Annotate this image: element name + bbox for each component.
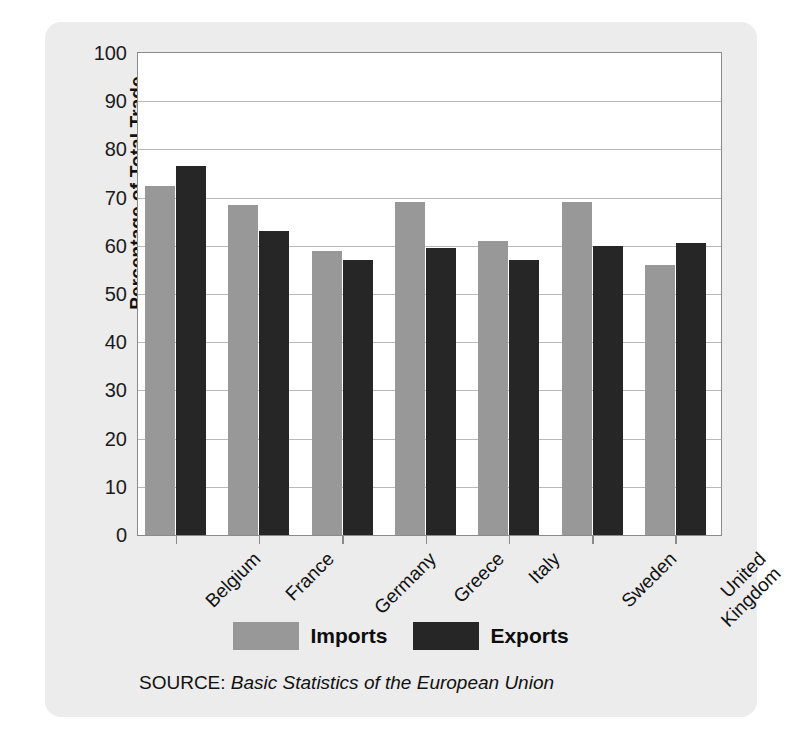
- bar-group: [645, 53, 706, 535]
- bar-imports: [145, 186, 175, 535]
- bar-group: [478, 53, 539, 535]
- chart-page: Percentage of Total Trade 10090807060504…: [0, 0, 792, 748]
- bar-exports: [593, 246, 623, 535]
- category-label-line: Germany: [370, 548, 440, 618]
- category-label-line: Italy: [524, 548, 564, 588]
- legend-label: Exports: [490, 624, 568, 648]
- bar-group: [312, 53, 373, 535]
- x-axis-tick: [675, 535, 677, 544]
- y-axis-tick-label: 40: [105, 331, 127, 354]
- bar-exports: [426, 248, 456, 535]
- bar-group: [395, 53, 456, 535]
- legend-swatch-exports: [413, 622, 479, 650]
- bar-imports: [312, 251, 342, 535]
- y-axis-tick-label: 80: [105, 138, 127, 161]
- source-prefix: SOURCE:: [139, 672, 226, 693]
- plot-area: 1009080706050403020100: [137, 52, 722, 536]
- y-axis-tick-label: 0: [116, 524, 127, 547]
- y-axis-tick-label: 100: [94, 42, 127, 65]
- category-label-line: Belgium: [201, 548, 265, 612]
- y-axis-tick-label: 10: [105, 475, 127, 498]
- y-axis-tick-label: 30: [105, 379, 127, 402]
- x-axis-tick: [259, 535, 261, 544]
- chart-legend: ImportsExports: [45, 622, 757, 650]
- y-axis-tick-label: 20: [105, 427, 127, 450]
- bar-exports: [509, 260, 539, 535]
- bar-imports: [645, 265, 675, 535]
- y-axis-tick-label: 70: [105, 186, 127, 209]
- bar-exports: [176, 166, 206, 535]
- y-axis-tick-label: 50: [105, 283, 127, 306]
- bar-group: [562, 53, 623, 535]
- bar-exports: [343, 260, 373, 535]
- bar-series-container: [138, 53, 721, 535]
- x-axis-category-label: UnitedKingdom: [702, 548, 785, 631]
- bar-exports: [676, 243, 706, 535]
- x-axis-category-label: Sweden: [617, 548, 681, 612]
- x-axis-category-label: Italy: [524, 548, 564, 588]
- y-axis-tick-label: 90: [105, 90, 127, 113]
- x-axis-category-label: Greece: [449, 548, 508, 607]
- x-axis-tick: [176, 535, 178, 544]
- bar-chart-figure: Percentage of Total Trade 10090807060504…: [45, 22, 757, 717]
- x-axis-tick: [426, 535, 428, 544]
- legend-item: Exports: [413, 622, 568, 650]
- x-axis-category-label: Belgium: [201, 548, 265, 612]
- source-note: SOURCE: Basic Statistics of the European…: [139, 672, 554, 694]
- bar-imports: [562, 202, 592, 535]
- category-label-line: Sweden: [617, 548, 681, 612]
- x-axis-category-label: Germany: [370, 548, 440, 618]
- legend-label: Imports: [310, 624, 387, 648]
- x-axis-tick: [592, 535, 594, 544]
- category-label-line: France: [281, 548, 338, 605]
- source-title: Basic Statistics of the European Union: [231, 672, 554, 693]
- bar-imports: [395, 202, 425, 535]
- bar-imports: [228, 205, 258, 535]
- category-label-line: Greece: [449, 548, 508, 607]
- x-axis-tick: [509, 535, 511, 544]
- x-axis-tick: [342, 535, 344, 544]
- bar-exports: [259, 231, 289, 535]
- bar-group: [228, 53, 289, 535]
- bar-imports: [478, 241, 508, 535]
- legend-swatch-imports: [233, 622, 299, 650]
- bar-group: [145, 53, 206, 535]
- y-axis-tick-label: 60: [105, 234, 127, 257]
- x-axis-category-label: France: [281, 548, 338, 605]
- legend-item: Imports: [233, 622, 387, 650]
- figure-card: Percentage of Total Trade 10090807060504…: [45, 22, 757, 717]
